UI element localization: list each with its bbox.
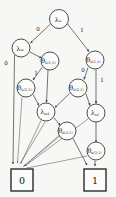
edge-theta-left-to-terminal-zero (18, 97, 23, 163)
edge-lambda-n1-to-terminal-zero (25, 119, 88, 166)
node-theta-b11-mid[interactable]: θb(1,1) (41, 52, 59, 70)
terminal-one-label: 1 (92, 175, 98, 186)
node-theta-b21-left[interactable]: θb(2,1) (17, 79, 35, 97)
edge-label-0-theta-right: 0 (81, 67, 85, 73)
edge-theta-mid-to-lambda-m1 (47, 70, 49, 103)
edge-label-1-theta-right: 1 (100, 77, 104, 83)
edge-theta-mid-right-to-lambda-n1 (86, 94, 90, 106)
edge-lambda-m1-to-theta-a (54, 118, 61, 126)
edge-theta-a-to-terminal-one (73, 139, 87, 166)
node-theta-b21-right[interactable]: θb(2,1) (69, 79, 87, 97)
edge-extra-to-terminal-zero-b (20, 122, 45, 164)
edge-label-1-root-right: 1 (80, 27, 84, 33)
edge-label-0-root-left: 0 (36, 26, 40, 32)
edge-root-to-lambda-m (31, 24, 51, 43)
edge-theta-left-to-lambda-m1 (33, 95, 39, 106)
edge-theta-mid-right-to-lambda-m1 (55, 94, 70, 108)
node-theta-a21-mid[interactable]: θa(2,1) (58, 122, 76, 140)
node-lambda-n[interactable]: λn (50, 10, 69, 29)
decision-diagram: 0 1 0 1 0 1 λn λm (0, 0, 116, 197)
edge-lambda-m-to-theta-mid (30, 52, 42, 58)
node-theta-a21-lower[interactable]: θa(2,1) (87, 142, 105, 160)
terminal-one[interactable]: 1 (84, 169, 106, 191)
edge-lambda-m-to-terminal-zero (13, 55, 15, 164)
node-lambda-n1[interactable]: λn1 (87, 104, 105, 122)
node-theta-b11-right[interactable]: θb(1,1) (86, 51, 104, 69)
terminal-zero-label: 0 (19, 175, 25, 186)
node-lambda-m1[interactable]: λm1 (37, 103, 55, 121)
terminal-group: 0 1 (11, 169, 106, 191)
edge-root-to-theta-right (68, 24, 90, 52)
edge-label-0-lambda-m: 0 (4, 60, 8, 66)
terminal-zero[interactable]: 0 (11, 169, 33, 191)
diagram-canvas: 0 1 0 1 0 1 λn λm (0, 0, 116, 197)
edge-label-1-theta-mid: 1 (34, 70, 38, 76)
node-lambda-m[interactable]: λm (12, 39, 30, 57)
